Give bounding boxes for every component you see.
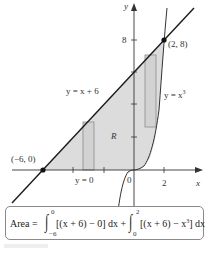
cubic-label-exp: 3 [183,89,186,95]
rectangle-right [145,55,156,127]
integral-2-tail: ] dx [189,218,205,229]
x-axis-boundary-label: y = 0 [75,175,94,185]
point-intersection-right [161,37,166,42]
formula-prefix: Area = [10,218,38,229]
cubic-label: y = x3 [164,89,186,100]
cubic-label-text: y = x [164,90,183,100]
line-curve [12,8,194,203]
area-formula-box: Area = ∫ 0 −6 [(x + 6) − 0] dx + ∫ 2 0 [… [5,206,204,240]
integral-2-lower: 0 [133,230,137,238]
x-tick-label-0: 0 [127,175,132,185]
point-intersection-left [40,167,45,172]
point-label-left: (−6, 0) [11,154,36,164]
y-axis-arrow-icon [131,3,137,11]
x-axis-arrow-icon [195,167,203,173]
point-label-right: (2, 8) [168,39,188,49]
rectangle-left [83,122,94,170]
integral-sign-1: ∫ [45,210,48,233]
x-axis-label: x [195,178,200,188]
integral-1-lower: −6 [49,230,56,238]
y-tick-label-8: 8 [122,35,127,45]
integral-1-upper: 0 [51,208,55,216]
integral-sign-2: ∫ [129,210,132,233]
y-axis-label: y [123,1,128,11]
figure-caption-faint [4,244,48,248]
integral-2-upper: 2 [136,208,140,216]
integral-1-body: [(x + 6) − 0] dx + [56,218,126,229]
line-label: y = x + 6 [66,86,99,96]
integral-2-body: [(x + 6) − x3] dx [140,218,205,229]
integral-2-body-text: [(x + 6) − x [140,218,186,229]
region-label: R [110,131,117,141]
x-tick-label-2: 2 [162,178,167,188]
